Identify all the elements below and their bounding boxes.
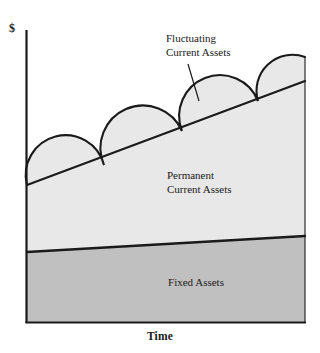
x-axis-label: Time xyxy=(0,330,320,342)
fluctuating-label-line-1: Fluctuating xyxy=(166,32,230,46)
permanent-current-assets-label: Permanent Current Assets xyxy=(167,169,231,196)
permanent-label-line-1: Permanent xyxy=(167,169,231,183)
fluctuating-label-line-2: Current Assets xyxy=(166,46,230,60)
fixed-assets-label: Fixed Assets xyxy=(154,276,238,290)
asset-financing-chart: $ Time Fluctuating Current Assets Perman… xyxy=(0,0,320,353)
fluctuating-current-assets-label: Fluctuating Current Assets xyxy=(166,32,230,59)
y-axis-label: $ xyxy=(9,21,15,36)
permanent-label-line-2: Current Assets xyxy=(167,183,231,197)
chart-canvas xyxy=(0,0,320,353)
